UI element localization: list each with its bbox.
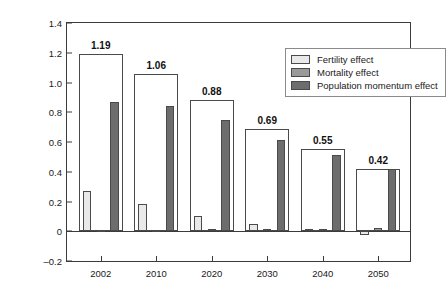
- y-tick-label: 1.4: [49, 18, 62, 29]
- mortality-bar: [263, 229, 271, 231]
- momentum-bar: [110, 102, 118, 231]
- x-tick-label: 2010: [146, 268, 167, 279]
- plot-area: 1.41.21.00.80.60.40.20–0.2 2002201020202…: [66, 22, 411, 262]
- y-tick-label: 0.6: [49, 137, 62, 148]
- mortality-bar: [97, 230, 105, 232]
- bar-value-label: 1.06: [147, 60, 166, 71]
- legend-swatch-icon: [291, 55, 310, 64]
- bar-value-label: 0.42: [369, 155, 388, 166]
- momentum-bar: [166, 106, 174, 232]
- chart-legend: Fertility effectMortality effectPopulati…: [285, 48, 446, 97]
- momentum-bar: [332, 155, 340, 231]
- legend-item-label: Population momentum effect: [317, 80, 438, 91]
- fertility-bar: [305, 229, 313, 231]
- y-tick-label: 1.2: [49, 47, 62, 58]
- bar-value-label: 0.55: [313, 135, 332, 146]
- y-tick-label: 0.8: [49, 107, 62, 118]
- fertility-bar: [194, 216, 202, 232]
- x-tick-label: 2030: [257, 268, 278, 279]
- momentum-bar: [221, 120, 229, 231]
- mortality-bar: [374, 228, 382, 231]
- legend-item-label: Mortality effect: [317, 67, 379, 78]
- y-tick-label: 0.2: [49, 196, 62, 207]
- y-tick-label: 0.4: [49, 166, 62, 177]
- legend-swatch-icon: [291, 68, 310, 77]
- x-tick-label: 2050: [368, 268, 389, 279]
- y-tick-label: 0: [57, 226, 62, 237]
- bar-value-label: 0.88: [202, 86, 221, 97]
- x-tick-label: 2040: [312, 268, 333, 279]
- legend-item: Population momentum effect: [291, 79, 438, 92]
- bar-value-label: 1.19: [91, 40, 110, 51]
- fertility-bar: [249, 224, 257, 231]
- mortality-bar: [208, 229, 216, 231]
- mortality-bar: [319, 229, 327, 232]
- x-tick-label: 2020: [201, 268, 222, 279]
- y-tick-label: 1.0: [49, 77, 62, 88]
- momentum-bar: [277, 140, 285, 231]
- legend-item-label: Fertility effect: [317, 54, 373, 65]
- fertility-bar: [360, 231, 368, 235]
- fertility-bar: [138, 204, 146, 231]
- fertility-bar: [83, 191, 91, 231]
- mortality-bar: [152, 230, 160, 232]
- legend-item: Fertility effect: [291, 53, 438, 66]
- legend-item: Mortality effect: [291, 66, 438, 79]
- x-tick-label: 2002: [90, 268, 111, 279]
- bar-value-label: 0.69: [258, 115, 277, 126]
- y-tick-label: –0.2: [44, 256, 63, 267]
- momentum-bar: [388, 169, 396, 231]
- legend-swatch-icon: [291, 81, 310, 90]
